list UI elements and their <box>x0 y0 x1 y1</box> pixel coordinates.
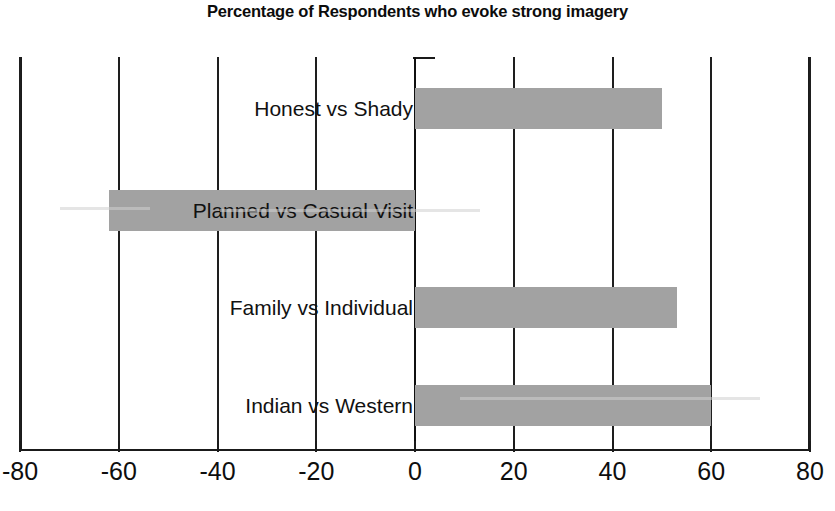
x-tick-mark <box>118 441 120 452</box>
gridline-80 <box>809 57 811 449</box>
x-tick-label: 40 <box>599 457 627 486</box>
x-tick-label: 0 <box>408 457 422 486</box>
x-tick-mark <box>315 441 317 452</box>
x-tick-label: -40 <box>199 457 235 486</box>
x-axis: -80-60-40-20020406080 <box>20 449 810 511</box>
x-tick-label: -60 <box>101 457 137 486</box>
x-tick-label: 80 <box>796 457 824 486</box>
scan-artifact <box>220 209 480 212</box>
x-tick-mark <box>710 441 712 452</box>
plot-area: Honest vs ShadyPlanned vs Casual VisitFa… <box>20 57 810 449</box>
bar <box>415 287 677 328</box>
category-label: Indian vs Western <box>20 385 420 426</box>
bar <box>415 385 711 426</box>
category-label: Family vs Individual <box>20 287 420 328</box>
scan-artifact <box>460 397 760 400</box>
chart-title: Percentage of Respondents who evoke stro… <box>0 2 835 21</box>
plot-frame-top <box>413 57 435 59</box>
x-tick-mark <box>612 441 614 452</box>
scan-artifact <box>60 207 150 210</box>
x-tick-mark <box>513 441 515 452</box>
chart-figure: Percentage of Respondents who evoke stro… <box>0 0 835 511</box>
x-tick-mark <box>414 441 416 452</box>
bar <box>415 88 662 129</box>
category-label: Honest vs Shady <box>20 88 420 129</box>
x-tick-mark <box>217 441 219 452</box>
x-tick-label: 60 <box>697 457 725 486</box>
x-tick-label: 20 <box>500 457 528 486</box>
x-tick-mark <box>809 441 811 452</box>
x-tick-label: -80 <box>2 457 38 486</box>
x-tick-label: -20 <box>298 457 334 486</box>
x-tick-mark <box>19 441 21 452</box>
